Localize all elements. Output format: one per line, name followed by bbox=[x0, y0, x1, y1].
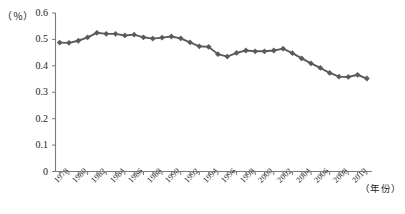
data-point bbox=[150, 36, 156, 42]
data-point bbox=[57, 40, 63, 46]
data-point bbox=[75, 38, 81, 44]
data-point bbox=[234, 50, 240, 56]
data-point bbox=[131, 32, 137, 38]
data-point bbox=[262, 48, 268, 54]
data-point bbox=[345, 74, 351, 80]
data-point bbox=[355, 72, 361, 78]
data-point bbox=[178, 35, 184, 41]
data-point bbox=[196, 43, 202, 49]
series-markers bbox=[57, 30, 370, 82]
data-point bbox=[159, 35, 165, 41]
data-point bbox=[66, 40, 72, 46]
data-point bbox=[243, 48, 249, 54]
plot-area bbox=[0, 0, 405, 214]
data-point bbox=[336, 74, 342, 80]
data-point bbox=[103, 31, 109, 37]
data-point bbox=[113, 31, 119, 37]
data-point bbox=[168, 34, 174, 40]
data-point bbox=[252, 48, 258, 54]
data-point bbox=[271, 48, 277, 54]
data-point bbox=[141, 34, 147, 40]
data-point bbox=[224, 54, 230, 60]
data-point bbox=[364, 76, 370, 82]
data-point bbox=[122, 33, 128, 39]
data-point bbox=[187, 39, 193, 45]
line-chart: （％） （年份） 00.10.20.30.40.50.6 19781980198… bbox=[0, 0, 405, 214]
series-line bbox=[60, 33, 367, 79]
